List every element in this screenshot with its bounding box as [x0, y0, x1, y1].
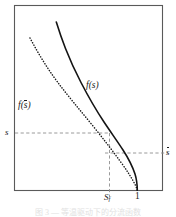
- axis-label-s: s: [5, 128, 9, 137]
- tick-label-sf: Sf: [104, 193, 110, 203]
- tick-label-one: 1: [135, 192, 140, 202]
- figure-container: f(s) f(s) s s Sf 1 图 3 — 等温驱动下的分流函数: [0, 0, 176, 217]
- tick-label-sf-subscript: f: [109, 195, 111, 202]
- annotation-f-sbar-close: ): [28, 100, 31, 110]
- annotation-f-sbar: f(s): [18, 101, 31, 111]
- axis-label-sbar-overline-group: s: [166, 148, 170, 157]
- annotation-f-sbar-arg: s: [24, 100, 28, 110]
- overline-bar-icon: [24, 100, 27, 101]
- axis-label-sbar-arg: s: [166, 147, 170, 157]
- axis-label-sbar: s: [166, 148, 170, 157]
- overline-bar-icon-right: [167, 147, 170, 148]
- figure-caption: 图 3 — 等温驱动下的分流函数: [0, 206, 176, 217]
- annotation-f-s: f(s): [86, 81, 99, 91]
- annotation-f-sbar-overline-group: s: [24, 101, 28, 111]
